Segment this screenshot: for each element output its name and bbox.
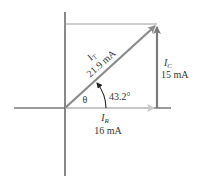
capacitive-current-value: 15 mA (161, 69, 189, 80)
phasor-diagram: IT 21.9 mA θ 43.2° IC 15 mA IR 16 mA (0, 0, 199, 186)
resistive-current-value: 16 mA (94, 125, 122, 136)
resistive-current-symbol-label: IR (100, 112, 109, 125)
total-current-label: IT 21.9 mA (76, 38, 118, 79)
angle-value: 43.2° (109, 91, 131, 102)
resistive-current-subscript: R (104, 117, 110, 125)
angle-arc-icon (97, 83, 106, 108)
theta-symbol: θ (83, 94, 88, 105)
